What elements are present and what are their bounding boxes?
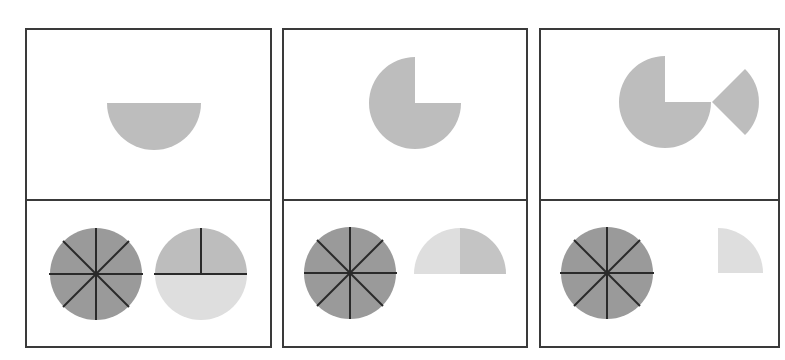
half-circle-split bbox=[414, 228, 506, 274]
panel-1 bbox=[26, 29, 271, 347]
panel-3 bbox=[540, 29, 779, 347]
panel-2 bbox=[283, 29, 527, 347]
fraction-diagram bbox=[0, 0, 785, 360]
three-quarter-circle-shape bbox=[369, 57, 461, 149]
circle-split-halves bbox=[154, 228, 247, 320]
circle-eighths bbox=[49, 228, 143, 320]
circle-eighths bbox=[304, 227, 397, 319]
quarter-circle-shape bbox=[718, 228, 763, 273]
half-circle-shape bbox=[107, 103, 201, 150]
three-quarter-circle-shape bbox=[619, 56, 711, 148]
circle-eighths bbox=[560, 227, 654, 319]
quarter-wedge-shape bbox=[712, 69, 759, 135]
